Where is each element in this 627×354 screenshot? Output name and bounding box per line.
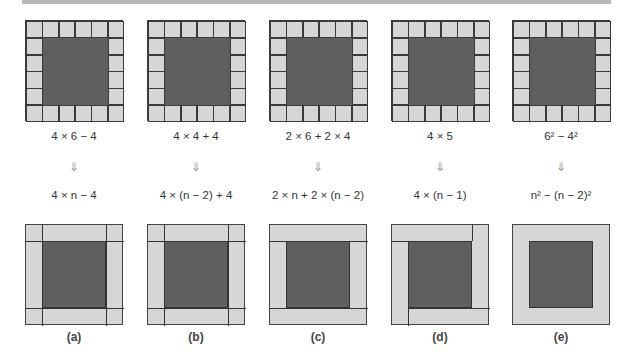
border-tile	[108, 105, 125, 122]
border-tile	[42, 21, 59, 38]
border-tile	[352, 88, 369, 105]
border-tile	[164, 105, 181, 122]
border-tile	[408, 21, 425, 38]
border-tile	[26, 38, 43, 55]
border-tile	[197, 105, 214, 122]
implies-arrow-icon: ⇓	[249, 160, 387, 174]
border-tile	[595, 55, 612, 72]
border-tile	[270, 21, 287, 38]
border-tile	[148, 105, 165, 122]
border-tile	[91, 105, 108, 122]
implies-arrow-icon: ⇓	[5, 160, 143, 174]
border-tile	[392, 21, 409, 38]
border-tile	[26, 88, 43, 105]
border-tile	[270, 88, 287, 105]
border-tile	[270, 38, 287, 55]
panel-d: 4 × 5⇓4 × (n − 1)(d)	[391, 0, 513, 354]
partition-line	[472, 225, 473, 241]
border-tile	[213, 105, 230, 122]
border-tile	[595, 105, 612, 122]
panel-b: 4 × 4 + 4⇓4 × (n − 2) + 4(b)	[147, 0, 269, 354]
border-tile	[392, 105, 409, 122]
general-expression: 4 × (n − 1)	[371, 189, 509, 201]
numeric-expression: 4 × 6 − 4	[5, 130, 143, 142]
border-tile	[303, 105, 320, 122]
border-tile	[474, 88, 491, 105]
implies-arrow-icon: ⇓	[371, 160, 509, 174]
border-tile	[230, 21, 247, 38]
border-tile	[230, 88, 247, 105]
border-tile	[26, 71, 43, 88]
partition-diagram	[25, 224, 123, 325]
panel-label: (a)	[25, 330, 123, 344]
panel-label: (c)	[269, 330, 367, 344]
border-tile	[546, 21, 563, 38]
border-tile	[108, 38, 125, 55]
border-tile	[286, 21, 303, 38]
interior-square	[529, 241, 593, 308]
border-tile	[513, 21, 530, 38]
border-tile	[335, 105, 352, 122]
panel-label: (b)	[147, 330, 245, 344]
tile-grid	[269, 20, 367, 121]
partition-diagram	[147, 224, 245, 325]
border-tile	[457, 21, 474, 38]
border-tile	[26, 55, 43, 72]
general-expression: 4 × (n − 2) + 4	[127, 189, 265, 201]
border-tile	[319, 105, 336, 122]
border-tile	[546, 105, 563, 122]
implies-arrow-icon: ⇓	[492, 160, 627, 174]
border-tile	[595, 71, 612, 88]
numeric-expression: 6² − 4²	[492, 130, 627, 142]
border-tile	[286, 105, 303, 122]
partition-line	[26, 308, 124, 309]
border-tile	[75, 105, 92, 122]
border-tile	[392, 71, 409, 88]
implies-arrow-icon: ⇓	[127, 160, 265, 174]
border-tile	[230, 55, 247, 72]
border-tile	[148, 55, 165, 72]
border-tile	[181, 105, 198, 122]
border-tile	[303, 21, 320, 38]
border-tile	[164, 21, 181, 38]
tile-grid	[391, 20, 489, 121]
panel-e: 6² − 4²⇓n² − (n − 2)²(e)	[512, 0, 627, 354]
border-tile	[529, 21, 546, 38]
border-tile	[108, 71, 125, 88]
border-tile	[230, 105, 247, 122]
partition-diagram	[512, 224, 610, 325]
partition-line	[148, 241, 246, 242]
border-tile	[26, 21, 43, 38]
border-tile	[595, 38, 612, 55]
border-tile	[352, 105, 369, 122]
partition-diagram	[269, 224, 367, 325]
border-tile	[108, 21, 125, 38]
border-tile	[513, 38, 530, 55]
border-tile	[425, 105, 442, 122]
numeric-expression: 2 × 6 + 2 × 4	[249, 130, 387, 142]
border-tile	[441, 21, 458, 38]
border-tile	[513, 88, 530, 105]
general-expression: 2 × n + 2 × (n − 2)	[249, 189, 387, 201]
border-tile	[270, 71, 287, 88]
border-tile	[270, 55, 287, 72]
border-tile	[352, 38, 369, 55]
interior-square	[164, 241, 228, 308]
panel-label: (d)	[391, 330, 489, 344]
border-tile	[474, 105, 491, 122]
border-tile	[474, 21, 491, 38]
border-tile	[148, 88, 165, 105]
interior-square	[42, 241, 106, 308]
border-tile	[335, 21, 352, 38]
border-tile	[474, 55, 491, 72]
partition-line	[408, 308, 490, 309]
border-tile	[474, 71, 491, 88]
border-tile	[513, 71, 530, 88]
panel-c: 2 × 6 + 2 × 4⇓2 × n + 2 × (n − 2)(c)	[269, 0, 391, 354]
border-tile	[108, 88, 125, 105]
border-tile	[457, 105, 474, 122]
border-tile	[425, 21, 442, 38]
partition-line	[148, 308, 246, 309]
border-tile	[513, 55, 530, 72]
interior-square	[286, 241, 350, 308]
